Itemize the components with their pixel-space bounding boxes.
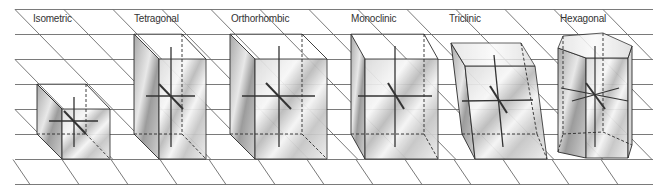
crystal-monoclinic [351,34,438,159]
label-triclinic: Triclinic [449,13,481,24]
crystal-orthorhombic [230,34,327,159]
crystal-systems-figure: Isometric Tetragonal Orthorhombic Monocl… [0,0,664,196]
label-isometric: Isometric [33,13,72,24]
label-orthorhombic: Orthorhombic [231,13,289,24]
crystal-triclinic [451,43,547,159]
crystal-hexagonal [558,33,632,158]
grid-horizontal-lines [15,10,653,185]
figure-canvas [0,0,664,196]
label-tetragonal: Tetragonal [134,13,179,24]
label-hexagonal: Hexagonal [560,13,606,24]
label-monoclinic: Monoclinic [351,13,396,24]
crystal-tetragonal [134,34,206,159]
